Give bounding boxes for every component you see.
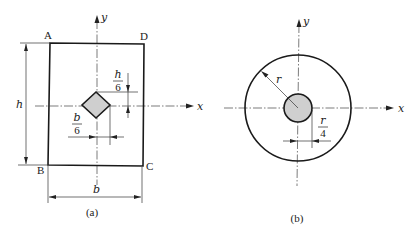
r4-denominator: 4 [320,127,326,139]
corner-label-d: D [140,30,148,42]
caption-a: (a) [86,206,99,219]
y-axis-arrow-icon [95,15,100,23]
x-axis-arrow-icon [186,104,194,109]
arrowhead-icon [126,106,130,113]
y-axis-arrow-icon [297,19,302,27]
diagram-canvas: x y A D B C h b h 6 [0,0,413,237]
arrowhead-icon [24,44,28,51]
b-dimension-label: b [93,183,100,196]
arrowhead-icon [89,135,96,139]
arrowhead-icon [261,71,269,78]
arrowhead-icon [49,195,56,199]
arrowhead-icon [24,157,28,164]
b6-numerator: b [73,111,80,124]
x-axis-label-b: x [398,102,405,115]
h-dimension-label: h [16,98,23,111]
y-axis-label-b: y [302,15,310,28]
figure-b: x y r r 4 (b) [224,15,405,225]
corner-label-c: C [146,160,153,172]
r4-numerator: r [320,114,326,127]
h6-numerator: h [114,68,121,81]
arrowhead-icon [126,85,130,92]
h6-fraction-label: h 6 [113,68,123,93]
h6-denominator: 6 [115,81,121,93]
x-axis-arrow-icon [386,106,394,111]
radius-label: r [276,73,282,86]
arrowhead-icon [110,135,117,139]
caption-b: (b) [291,212,304,225]
diamond-hole [82,92,110,118]
corner-label-a: A [44,29,52,41]
r4-fraction-label: r 4 [318,114,328,139]
b6-fraction-label: b 6 [72,111,82,136]
arrowhead-icon [134,195,141,199]
arrowhead-icon [312,139,319,143]
b6-denominator: 6 [74,124,80,136]
y-axis-label-a: y [100,11,108,24]
x-axis-label-a: x [197,100,204,113]
corner-label-b: B [37,164,44,176]
arrowhead-icon [290,139,297,143]
figure-a: x y A D B C h b h 6 [16,11,204,219]
